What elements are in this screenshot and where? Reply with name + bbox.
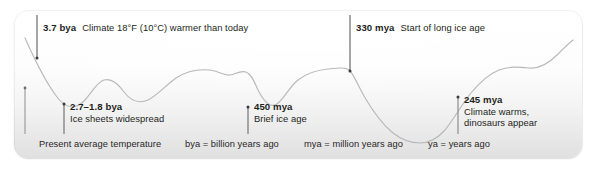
legend-ya: ya = years ago [428,139,490,149]
legend-present-average-temperature: Present average temperature [39,139,161,149]
legend-bya: bya = billion years ago [185,139,279,149]
annotation-330mya: 330 myaStart of long ice age [356,16,485,36]
annotation-27-18bya: 2.7–1.8 bya Ice sheets widespread [70,101,164,124]
annotation-450mya-description: Brief ice age [254,113,307,124]
infographic-root: 3.7 byaClimate 18°F (10°C) warmer than t… [0,0,596,173]
legend-mya: mya = million years ago [304,139,403,149]
annotation-450mya: 450 mya Brief ice age [254,101,307,124]
annotation-245mya: 245 mya Climate warms, dinosaurs appear [464,94,537,129]
annotation-37bya-description: Climate 18°F (10°C) warmer than today [82,22,248,33]
annotation-37bya-title: 3.7 bya [43,22,76,33]
annotation-37bya: 3.7 byaClimate 18°F (10°C) warmer than t… [43,16,248,36]
annotation-27-18bya-title: 2.7–1.8 bya [70,101,164,113]
annotation-245mya-description-line2: dinosaurs appear [464,117,537,128]
annotation-450mya-title: 450 mya [254,101,307,113]
annotation-245mya-description-line1: Climate warms, [464,106,537,117]
annotation-245mya-title: 245 mya [464,94,537,106]
annotation-27-18bya-description: Ice sheets widespread [70,113,164,124]
annotation-330mya-title: 330 mya [356,22,395,33]
annotation-330mya-description: Start of long ice age [401,22,485,33]
